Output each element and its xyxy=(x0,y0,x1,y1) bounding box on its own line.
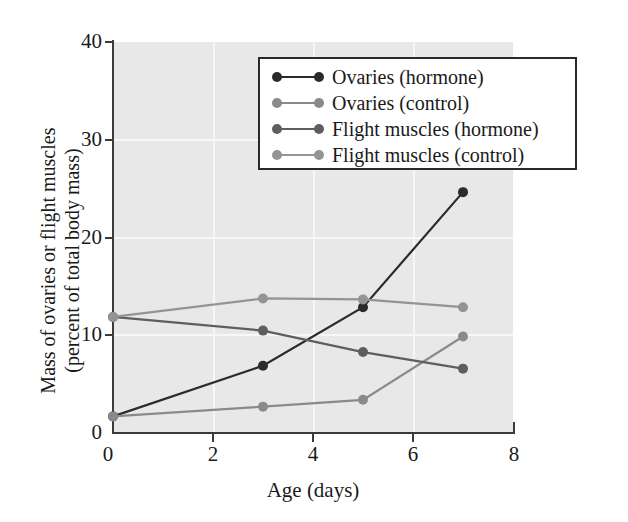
legend-line xyxy=(277,128,319,130)
y-axis-title: Mass of ovaries or flight muscles (perce… xyxy=(37,66,84,456)
x-axis-tick xyxy=(212,433,214,442)
legend-swatch-icon xyxy=(272,69,324,85)
x-axis-tick-label: 4 xyxy=(293,444,333,465)
chart-figure: 40 30 20 10 0 0 2 4 6 8 Age (days) Mass … xyxy=(0,0,628,522)
x-axis-tick xyxy=(513,422,515,434)
legend-marker-dot xyxy=(272,124,282,134)
legend: Ovaries (hormone) Ovaries (control) Flig… xyxy=(258,57,577,170)
x-axis-tick xyxy=(112,422,114,434)
legend-marker-dot xyxy=(272,98,282,108)
legend-item-flight-muscles-hormone: Flight muscles (hormone) xyxy=(260,116,575,142)
x-axis-tick-label: 2 xyxy=(193,444,233,465)
x-axis-tick-label: 0 xyxy=(88,444,128,465)
x-axis-tick-label: 6 xyxy=(393,444,433,465)
x-axis-tick xyxy=(312,433,314,442)
legend-item-label: Ovaries (control) xyxy=(332,93,469,113)
legend-item-flight-muscles-control: Flight muscles (control) xyxy=(260,142,575,168)
legend-marker-dot xyxy=(272,72,282,82)
legend-item-label: Ovaries (hormone) xyxy=(332,67,484,87)
y-axis-tick xyxy=(105,334,114,336)
legend-swatch-icon xyxy=(272,121,324,137)
x-axis-tick-label: 8 xyxy=(494,444,534,465)
legend-item-ovaries-hormone: Ovaries (hormone) xyxy=(260,64,575,90)
legend-marker-dot xyxy=(314,150,324,160)
legend-marker-dot xyxy=(272,150,282,160)
x-axis-tick xyxy=(412,433,414,442)
x-axis-title: Age (days) xyxy=(113,478,513,503)
gridline-horizontal xyxy=(113,334,513,336)
legend-marker-dot xyxy=(314,98,324,108)
legend-item-label: Flight muscles (hormone) xyxy=(332,119,539,139)
legend-item-ovaries-control: Ovaries (control) xyxy=(260,90,575,116)
y-axis-tick-label: 40 xyxy=(62,31,102,52)
y-axis-title-line1: Mass of ovaries or flight muscles xyxy=(37,66,61,456)
legend-item-label: Flight muscles (control) xyxy=(332,145,524,165)
gridline-horizontal xyxy=(113,237,513,239)
y-axis-tick xyxy=(105,237,114,239)
legend-marker-dot xyxy=(314,124,324,134)
legend-swatch-icon xyxy=(272,95,324,111)
legend-marker-dot xyxy=(314,72,324,82)
y-axis-tick xyxy=(105,139,114,141)
legend-swatch-icon xyxy=(272,147,324,163)
y-axis-tick xyxy=(105,41,114,43)
legend-line xyxy=(277,102,319,104)
legend-line xyxy=(277,154,319,156)
y-axis-title-line2: (percent of total body mass) xyxy=(61,66,85,456)
legend-line xyxy=(277,76,319,78)
